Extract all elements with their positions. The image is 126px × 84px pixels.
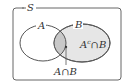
set-b-label: B	[74, 19, 82, 30]
complement-region-label: Ac∩B	[79, 38, 106, 50]
intersection-label: A∩B	[53, 66, 77, 77]
set-a-label: A	[37, 20, 45, 31]
universe-label: S	[27, 2, 34, 13]
venn-diagram: S A B Ac∩B A∩B	[0, 0, 126, 84]
